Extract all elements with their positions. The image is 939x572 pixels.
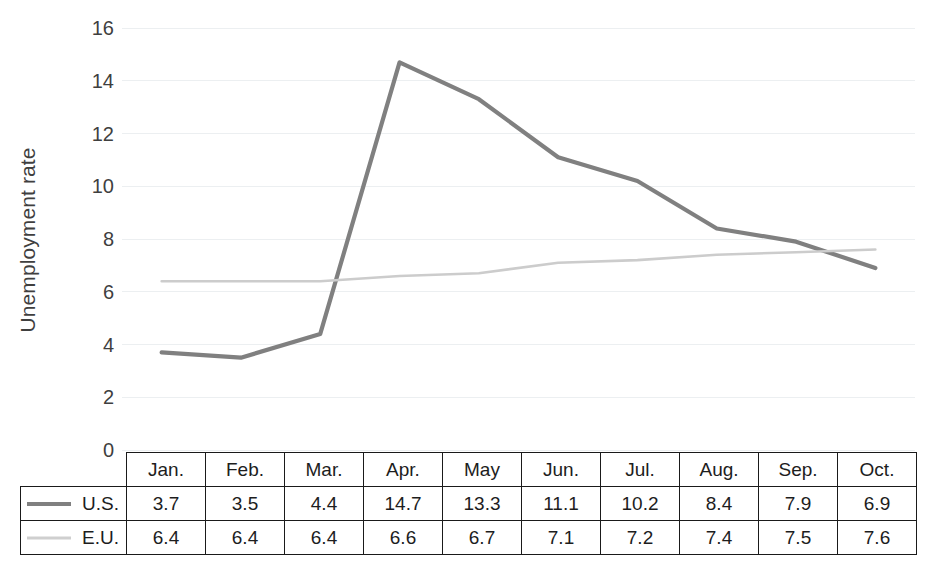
table-cell: 6.4 — [285, 521, 364, 555]
chart-page: Unemployment rate 1614121086420 Jan.Feb.… — [0, 0, 939, 572]
table-column-header: May — [443, 453, 522, 487]
eu-line-swatch — [27, 536, 71, 539]
table-cell: 7.5 — [759, 521, 838, 555]
table-cell: 6.9 — [838, 487, 917, 521]
data-table: Jan.Feb.Mar.Apr.MayJun.Jul.Aug.Sep.Oct.U… — [20, 452, 917, 555]
table-cell: 6.7 — [443, 521, 522, 555]
table-row: U.S.3.73.54.414.713.311.110.28.47.96.9 — [21, 487, 917, 521]
table-cell: 7.1 — [522, 521, 601, 555]
y-tick-label: 6 — [52, 282, 114, 302]
series-label: E.U. — [82, 521, 119, 554]
table-cell: 7.9 — [759, 487, 838, 521]
table-cell: 7.6 — [838, 521, 917, 555]
series-label: U.S. — [82, 487, 119, 520]
table-column-header: Apr. — [364, 453, 443, 487]
table-cell: 6.6 — [364, 521, 443, 555]
series-line-us — [162, 62, 876, 357]
table-column-header: Oct. — [838, 453, 917, 487]
table-column-header: Mar. — [285, 453, 364, 487]
y-tick-label: 10 — [52, 176, 114, 196]
table-cell: 8.4 — [680, 487, 759, 521]
series-lines — [162, 62, 876, 357]
gridlines — [122, 28, 915, 450]
table-column-header: Jul. — [601, 453, 680, 487]
y-tick-label: 2 — [52, 387, 114, 407]
plot-area — [122, 28, 915, 450]
table-cell: 6.4 — [206, 521, 285, 555]
table-column-header: Sep. — [759, 453, 838, 487]
table-cell: 7.2 — [601, 521, 680, 555]
legend-row-eu: E.U. — [21, 521, 127, 555]
y-tick-label: 4 — [52, 335, 114, 355]
table-cell: 3.7 — [127, 487, 206, 521]
table-column-header: Jun. — [522, 453, 601, 487]
table-cell: 3.5 — [206, 487, 285, 521]
table-cell: 13.3 — [443, 487, 522, 521]
y-tick-label: 12 — [52, 124, 114, 144]
data-table-body: Jan.Feb.Mar.Apr.MayJun.Jul.Aug.Sep.Oct.U… — [21, 453, 917, 555]
table-cell: 6.4 — [127, 521, 206, 555]
table-cell: 4.4 — [285, 487, 364, 521]
table-cell: 7.4 — [680, 521, 759, 555]
table-header-row: Jan.Feb.Mar.Apr.MayJun.Jul.Aug.Sep.Oct. — [21, 453, 917, 487]
table-cell: 14.7 — [364, 487, 443, 521]
series-line-eu — [162, 250, 876, 282]
y-tick-label: 8 — [52, 229, 114, 249]
table-corner-cell — [21, 453, 127, 487]
y-tick-label: 16 — [52, 18, 114, 38]
y-tick-label: 14 — [52, 71, 114, 91]
table-column-header: Jan. — [127, 453, 206, 487]
legend-row-us: U.S. — [21, 487, 127, 521]
chart-svg — [122, 28, 915, 450]
y-axis-title: Unemployment rate — [0, 5, 56, 475]
table-row: E.U.6.46.46.46.66.77.17.27.47.57.6 — [21, 521, 917, 555]
table-column-header: Aug. — [680, 453, 759, 487]
us-line-swatch — [27, 502, 71, 506]
table-column-header: Feb. — [206, 453, 285, 487]
table-cell: 10.2 — [601, 487, 680, 521]
table-cell: 11.1 — [522, 487, 601, 521]
